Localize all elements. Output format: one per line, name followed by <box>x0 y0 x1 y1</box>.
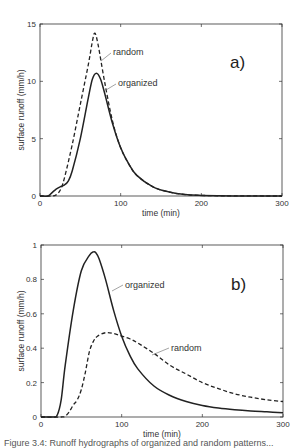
ticks-a: 0100200300051015 <box>27 20 289 208</box>
series-organized-b <box>41 252 283 417</box>
series-organized-a <box>40 73 282 196</box>
x-tick-label: 0 <box>38 199 43 208</box>
leader-random-a <box>101 53 111 61</box>
x-tick-label: 100 <box>114 199 128 208</box>
y-tick-label: 0 <box>33 413 38 422</box>
y-tick-label: 0.4 <box>26 344 38 353</box>
panel-label-b: b) <box>231 275 246 294</box>
figure: 0100200300051015 random organized a) tim… <box>0 0 303 448</box>
annotation-organized-a: organized <box>118 78 158 88</box>
annotation-organized-b: organized <box>125 280 165 290</box>
leader-organized-b <box>112 285 123 291</box>
y-tick-label: 0.6 <box>26 310 38 319</box>
y-tick-label: 10 <box>27 77 36 86</box>
series-random-a <box>40 33 282 196</box>
y-tick-label: 0.8 <box>26 275 38 284</box>
panel-b: 010020030000.20.40.60.81 organized rando… <box>16 241 290 439</box>
x-tick-label: 200 <box>195 199 209 208</box>
leader-random-b <box>152 348 169 355</box>
x-tick-label: 0 <box>39 420 44 429</box>
y-tick-label: 0 <box>32 192 37 201</box>
y-tick-label: 5 <box>32 135 37 144</box>
x-tick-label: 300 <box>275 199 289 208</box>
panel-a: 0100200300051015 random organized a) tim… <box>16 20 289 218</box>
series-random-b <box>41 333 283 417</box>
figure-caption: Figure 3.4: Runoff hydrographs of organi… <box>4 438 274 448</box>
y-tick-label: 0.2 <box>26 379 38 388</box>
ylabel-a: surface runoff (mm/h) <box>16 69 26 150</box>
panel-label-a: a) <box>230 53 245 72</box>
x-tick-label: 200 <box>196 420 210 429</box>
ylabel-b: surface runoff (mm/h) <box>16 290 26 371</box>
ticks-b: 010020030000.20.40.60.81 <box>26 241 290 429</box>
annotation-random-b: random <box>171 343 202 353</box>
x-tick-label: 100 <box>115 420 129 429</box>
y-tick-label: 1 <box>33 241 38 250</box>
y-tick-label: 15 <box>27 20 36 29</box>
x-tick-label: 300 <box>276 420 290 429</box>
leader-organized-a <box>106 84 116 90</box>
xlabel-a: time (min) <box>142 208 180 218</box>
annotation-random-a: random <box>113 47 144 57</box>
plot-frame-a <box>40 24 282 196</box>
